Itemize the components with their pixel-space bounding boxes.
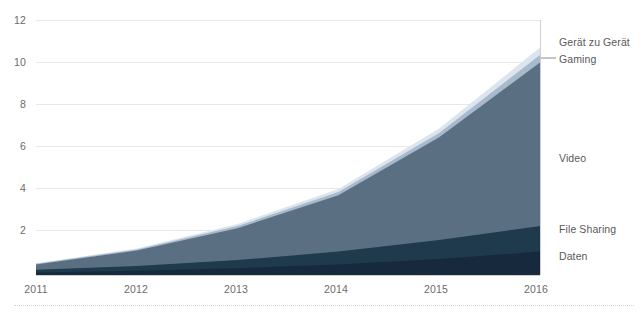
x-tick-2013: 2013: [213, 283, 259, 295]
stacked-area-chart: 12 10 8 6 4 2 2011 2012 2013 2014 2015 2…: [0, 0, 644, 315]
series-label-file-sharing: File Sharing: [559, 223, 616, 235]
series-label-video: Video: [559, 152, 586, 164]
x-tick-2014: 2014: [313, 283, 359, 295]
footer-divider: [14, 305, 634, 307]
y-tick-6: 6: [0, 140, 26, 152]
y-tick-10: 10: [0, 56, 26, 68]
x-tick-2016: 2016: [513, 283, 559, 295]
area-series-group: [36, 48, 540, 275]
series-label-gaming: Gaming: [559, 53, 596, 65]
x-tick-2012: 2012: [113, 283, 159, 295]
chart-canvas: [0, 0, 644, 315]
y-tick-12: 12: [0, 14, 26, 26]
y-tick-4: 4: [0, 182, 26, 194]
y-tick-2: 2: [0, 224, 26, 236]
series-label-daten: Daten: [559, 250, 588, 262]
y-tick-8: 8: [0, 98, 26, 110]
x-tick-2015: 2015: [413, 283, 459, 295]
series-label-geraet-zu-geraet: Gerät zu Gerät: [559, 36, 630, 48]
x-tick-2011: 2011: [13, 283, 59, 295]
